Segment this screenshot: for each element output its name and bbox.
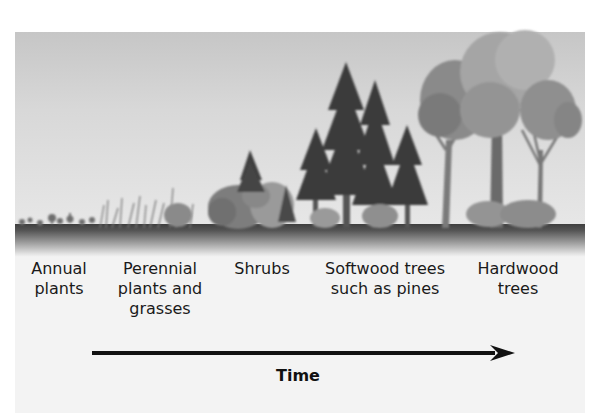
label-softwood-trees: Softwood trees such as pines [310, 259, 460, 299]
hardwood-trees-icon [418, 30, 582, 228]
vegetation-illustration [15, 0, 594, 240]
time-axis-label: Time [268, 366, 328, 385]
label-annual-plants: Annual plants [14, 259, 104, 299]
label-shrubs: Shrubs [222, 259, 302, 279]
time-arrow-icon [90, 344, 515, 362]
label-perennial-plants: Perennial plants and grasses [110, 259, 210, 319]
small-bush-icon [164, 203, 192, 227]
shrubs-icon [208, 150, 296, 229]
annual-plants-icon [19, 213, 95, 226]
softwood-pines-icon [296, 62, 428, 228]
label-hardwood-trees: Hardwood trees [468, 259, 568, 299]
